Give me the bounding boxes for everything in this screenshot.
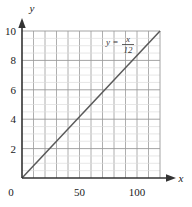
equation-denominator: 12 [124, 45, 134, 55]
graph-figure: x y 050100 246810 y = x 12 [0, 0, 192, 207]
y-tick-label-group: 246810 [5, 25, 17, 155]
equation-lhs: y [105, 37, 110, 47]
y-tick-label: 8 [11, 54, 17, 66]
x-tick-label-group: 050100 [8, 186, 146, 198]
arrow-right-icon [166, 174, 176, 181]
y-tick-label: 2 [11, 143, 17, 155]
x-tick-label: 50 [74, 186, 86, 198]
y-tick-label: 4 [11, 113, 17, 125]
y-tick-label: 10 [5, 25, 17, 37]
y-axis-label: y [29, 2, 35, 14]
x-axis-label: x [178, 172, 184, 184]
x-tick-label: 0 [8, 186, 14, 198]
x-tick-label: 100 [129, 186, 146, 198]
cartesian-plot: x y 050100 246810 y = x 12 [0, 0, 192, 207]
arrow-up-icon [18, 18, 25, 28]
y-tick-label: 6 [11, 84, 17, 96]
equation-operator: = [113, 37, 118, 47]
equation-numerator: x [125, 34, 130, 44]
